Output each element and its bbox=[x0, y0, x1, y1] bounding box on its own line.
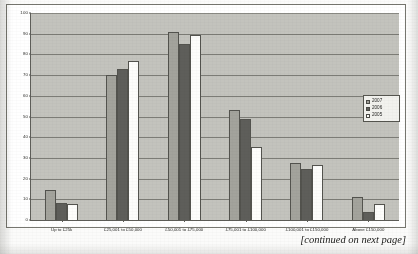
x-tick-label: Up to £25k bbox=[51, 228, 72, 232]
legend-swatch-icon bbox=[366, 100, 370, 104]
bar-group bbox=[92, 13, 153, 220]
y-tick-label: 100 bbox=[20, 11, 28, 15]
bar-2007 bbox=[45, 190, 56, 220]
figure-caption: [continued on next page] bbox=[300, 234, 406, 245]
y-tick-label: 20 bbox=[23, 176, 28, 180]
bar-2007 bbox=[168, 32, 179, 220]
y-tick-label: 60 bbox=[23, 94, 28, 98]
x-tick-label: £25,001 to £50,000 bbox=[104, 228, 142, 232]
y-tick-label: 30 bbox=[23, 156, 28, 160]
bar-2006 bbox=[301, 169, 312, 220]
legend-label: 2006 bbox=[372, 106, 382, 111]
chart-figure-frame: 0102030405060708090100 Up to £25k£25,001… bbox=[6, 4, 406, 228]
x-tick-mark bbox=[62, 220, 63, 222]
bar-2006 bbox=[56, 203, 67, 220]
legend-swatch-icon bbox=[366, 107, 370, 111]
x-tick-mark bbox=[368, 220, 369, 222]
bar-2005 bbox=[67, 204, 78, 220]
bar-2005 bbox=[312, 165, 323, 220]
legend-item-2006: 2006 bbox=[366, 105, 396, 112]
bar-2007 bbox=[106, 75, 117, 220]
legend-label: 2005 bbox=[372, 113, 382, 118]
legend-swatch-icon bbox=[366, 114, 370, 118]
x-tick-mark bbox=[307, 220, 308, 222]
y-tick-label: 50 bbox=[23, 114, 28, 118]
x-tick-label: £50,001 to £75,000 bbox=[165, 228, 203, 232]
bar-2006 bbox=[240, 119, 251, 220]
y-tick-label: 40 bbox=[23, 135, 28, 139]
y-tick-label: 90 bbox=[23, 31, 28, 35]
bar-2007 bbox=[352, 197, 363, 220]
bar-group bbox=[154, 13, 215, 220]
bar-group bbox=[31, 13, 92, 220]
scanned-page: 0102030405060708090100 Up to £25k£25,001… bbox=[0, 0, 418, 254]
bar-2007 bbox=[290, 163, 301, 220]
chart-plot-area: 0102030405060708090100 Up to £25k£25,001… bbox=[30, 13, 399, 221]
bar-2006 bbox=[179, 44, 190, 220]
bar-group bbox=[276, 13, 337, 220]
y-tick-label: 10 bbox=[23, 197, 28, 201]
chart-legend: 200720062005 bbox=[363, 95, 400, 122]
y-tick-label: 0 bbox=[25, 218, 28, 222]
legend-label: 2007 bbox=[372, 99, 382, 104]
bar-2005 bbox=[190, 35, 201, 220]
legend-item-2005: 2005 bbox=[366, 112, 396, 119]
bar-2005 bbox=[128, 61, 139, 220]
y-tick-label: 80 bbox=[23, 52, 28, 56]
bar-2005 bbox=[374, 204, 385, 220]
x-tick-mark bbox=[246, 220, 247, 222]
x-tick-mark bbox=[184, 220, 185, 222]
bar-2005 bbox=[251, 147, 262, 220]
x-tick-mark bbox=[123, 220, 124, 222]
legend-item-2007: 2007 bbox=[366, 98, 396, 105]
x-tick-label: £100,001 to £150,000 bbox=[286, 228, 329, 232]
x-tick-label: £75,001 to £100,000 bbox=[225, 228, 265, 232]
bar-group bbox=[215, 13, 276, 220]
bar-2006 bbox=[117, 69, 128, 220]
y-tick-label: 70 bbox=[23, 73, 28, 77]
x-tick-label: Above £150,000 bbox=[352, 228, 384, 232]
bar-2006 bbox=[363, 212, 374, 220]
bar-2007 bbox=[229, 110, 240, 220]
